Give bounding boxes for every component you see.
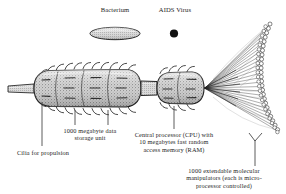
diagram-canvas bbox=[0, 0, 286, 194]
aids-virus-label: AIDS Virus bbox=[146, 6, 204, 13]
cilia-label: Cilia for propulsion bbox=[4, 149, 82, 156]
manipulator-fan bbox=[204, 22, 280, 134]
aids-virus-shape bbox=[170, 29, 178, 37]
manipulator-tips bbox=[256, 22, 280, 134]
cpu-segment bbox=[157, 65, 204, 110]
cpu-label: Central processor (CPU) with 10 megabyte… bbox=[124, 131, 224, 153]
manipulators-label: 1000 extendable molecular manipulators (… bbox=[166, 167, 282, 189]
tail-stub bbox=[8, 84, 34, 93]
storage-unit-label: 1000 megabyte data storage unit bbox=[52, 127, 128, 142]
nanorobot-diagram: Bacterium AIDS Virus Cilia for propulsio… bbox=[0, 0, 286, 194]
bacterium-shape bbox=[90, 27, 140, 39]
neck-connector-one bbox=[141, 81, 157, 96]
bacterium-label: Bacterium bbox=[85, 6, 145, 13]
storage-capsule bbox=[34, 70, 141, 108]
